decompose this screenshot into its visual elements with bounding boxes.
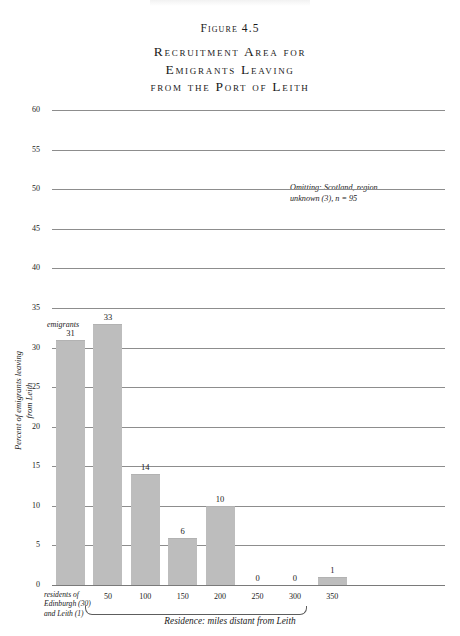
x-axis-range-bracket	[85, 606, 307, 615]
figure-number: Figure 4.5	[0, 22, 460, 34]
bar-value-label: 10	[200, 494, 241, 504]
gridline-60	[52, 110, 445, 111]
y-tick-label-5: 5	[0, 540, 40, 549]
bar	[56, 340, 85, 585]
gridline-55	[52, 150, 445, 151]
bar-value-label: 0	[237, 573, 278, 583]
y-axis-title: Percent of emigrants leaving from Leith	[13, 316, 34, 486]
y-tick-label-20: 20	[0, 422, 40, 431]
bar	[318, 577, 347, 585]
x-axis-title: Residence: miles distant from Leith	[0, 616, 460, 626]
y-tick-label-45: 45	[0, 224, 40, 233]
y-tick-label-55: 55	[0, 145, 40, 154]
figure-title-block: Figure 4.5 Recruitment Area for Emigrant…	[0, 22, 460, 96]
figure-title-line-1: Recruitment Area for	[0, 43, 460, 61]
y-tick-label-30: 30	[0, 343, 40, 352]
bar	[168, 538, 197, 586]
y-tick-label-25: 25	[0, 382, 40, 391]
y-tick-label-40: 40	[0, 263, 40, 272]
emigrants-note: emigrants	[47, 320, 79, 329]
gridline-50	[52, 189, 445, 190]
bar-value-label: 6	[162, 526, 203, 536]
bar-value-label: 14	[125, 462, 166, 472]
gridline-45	[52, 229, 445, 230]
bar-value-label: 0	[274, 573, 315, 583]
y-axis-title-line-2: from Leith	[23, 316, 34, 486]
y-tick-label-50: 50	[0, 184, 40, 193]
y-tick-label-60: 60	[0, 105, 40, 114]
bar	[93, 324, 122, 585]
y-tick-label-15: 15	[0, 461, 40, 470]
x-tick-label-350: 350	[308, 592, 357, 601]
figure-title-line-3: from the Port of Leith	[0, 78, 460, 96]
page-crop-artifact	[150, 0, 310, 6]
x-axis-first-category-line-1: residents of	[44, 590, 116, 599]
y-axis-title-line-1: Percent of emigrants leaving	[13, 316, 24, 486]
gridline-35	[52, 308, 445, 309]
y-tick-label-0: 0	[0, 580, 40, 589]
y-tick-label-10: 10	[0, 501, 40, 510]
figure-title-line-2: Emigrants Leaving	[0, 61, 460, 79]
x-axis-line	[52, 585, 445, 586]
y-tick-label-35: 35	[0, 303, 40, 312]
chart-plot-area	[52, 110, 445, 585]
bar-value-label: 1	[312, 565, 353, 575]
bar-value-label: 31	[50, 328, 91, 338]
bar	[206, 506, 235, 585]
bar-value-label: 33	[87, 312, 128, 322]
gridline-40	[52, 268, 445, 269]
bar	[131, 474, 160, 585]
